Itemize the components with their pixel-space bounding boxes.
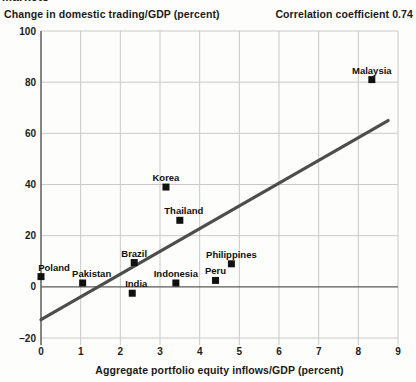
y-tick-label: 100: [19, 26, 36, 37]
data-point-label: Pakistan: [72, 268, 111, 279]
x-tick-label: 0: [38, 346, 44, 357]
data-point-philippines: [228, 260, 235, 267]
x-tick-label: 7: [316, 346, 322, 357]
data-point-label: Thailand: [164, 205, 203, 216]
y-tick-label: 20: [25, 230, 37, 241]
scatter-chart: 0123456789–20020406080100PolandPakistanI…: [0, 0, 416, 382]
y-tick-label: –20: [19, 333, 36, 344]
data-point-label: Peru: [205, 265, 226, 276]
x-tick-label: 2: [118, 346, 124, 357]
y-tick-label: 60: [25, 128, 37, 139]
data-point-peru: [212, 277, 219, 284]
data-point-malaysia: [368, 76, 375, 83]
y-tick-label: 0: [30, 281, 36, 292]
data-point-label: Korea: [152, 172, 180, 183]
data-point-label: Philippines: [206, 249, 257, 260]
data-point-korea: [162, 184, 169, 191]
data-point-label: Brazil: [121, 248, 147, 259]
x-tick-label: 4: [197, 346, 203, 357]
data-point-indonesia: [172, 279, 179, 286]
x-tick-label: 9: [395, 346, 401, 357]
y-tick-label: 40: [25, 179, 37, 190]
x-tick-label: 1: [78, 346, 84, 357]
figure-panel: Markets Change in domestic trading/GDP (…: [0, 0, 416, 382]
trend-line: [41, 121, 388, 320]
data-point-thailand: [176, 217, 183, 224]
x-tick-label: 8: [356, 346, 362, 357]
data-point-label: Indonesia: [154, 268, 199, 279]
data-point-label: Poland: [38, 262, 70, 273]
data-point-brazil: [131, 259, 138, 266]
y-tick-label: 80: [25, 77, 37, 88]
data-point-pakistan: [79, 279, 86, 286]
data-point-label: India: [125, 278, 148, 289]
x-tick-label: 6: [276, 346, 282, 357]
data-point-label: Malaysia: [352, 65, 392, 76]
data-point-poland: [38, 273, 45, 280]
x-tick-label: 5: [237, 346, 243, 357]
x-tick-label: 3: [157, 346, 163, 357]
data-point-india: [129, 290, 136, 297]
x-axis-title: Aggregate portfolio equity inflows/GDP (…: [41, 364, 398, 376]
